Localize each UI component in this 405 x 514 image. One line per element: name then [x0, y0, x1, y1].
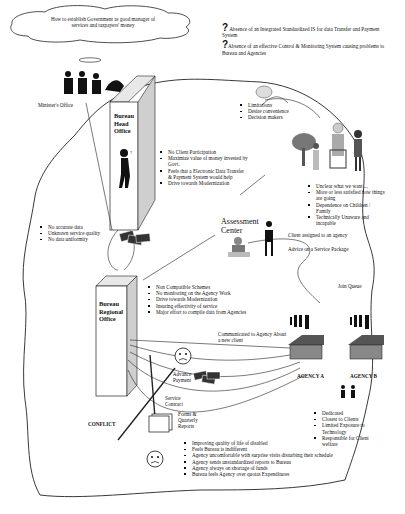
ministers-office-label: Minister's Office — [38, 102, 73, 108]
ministers-group-figure — [60, 70, 130, 102]
problem-item: ? Absence of an Integrated Standardized … — [222, 23, 392, 38]
flow-label-join-queue: Join Queue — [338, 283, 361, 289]
thinking-man-icon: ? — [116, 148, 136, 188]
title-cloud: How to establish Government as good mana… — [48, 16, 158, 28]
svg-text:?: ? — [130, 150, 133, 155]
client-stick-figure-icon — [260, 220, 278, 258]
money-icon — [192, 368, 222, 390]
agency-a-label: AGENCY A — [297, 373, 324, 379]
elderly-clients-illustration — [290, 120, 380, 180]
regional-office-bullets: Non Compatible Schemes No monitoring on … — [146, 284, 256, 315]
head-office-label: BureauHeadOffice — [114, 112, 134, 135]
agency-b-label: AGENCY B — [350, 373, 377, 379]
assessor-icon — [226, 236, 252, 258]
staff-figures-icon — [338, 384, 360, 406]
agency-b-building-icon — [346, 315, 386, 365]
agency-issues-bullets: Improving quality of life of disabled Fe… — [182, 440, 392, 477]
flow-label-advice: Advice on a Service Package — [288, 246, 349, 252]
flow-label-forms: Forms & Quarterly Reports — [178, 411, 208, 430]
money-icon — [118, 228, 152, 252]
client-traits-bullets: Unclear what we want ... More or less sa… — [306, 183, 386, 226]
flow-label-service-contract: Service Contract — [165, 395, 189, 407]
regional-office-label: BureauRegionalOffice — [99, 300, 123, 323]
flow-label-client-assigned: Client assigned to an agency — [288, 232, 347, 238]
worried-face-icon — [174, 346, 192, 366]
client-icon — [254, 82, 274, 100]
client-limitations-bullets: Limitations Desire convenience Decision … — [238, 102, 338, 121]
agency-a-building-icon — [286, 315, 326, 365]
flow-label-advance-payment: Advance Payment — [170, 371, 194, 383]
conflict-label: CONFLICT — [88, 421, 115, 427]
flow-label-communicated: Communicated to Agency About a new clien… — [218, 331, 288, 343]
people-icon — [60, 70, 130, 102]
forms-documents-icon — [146, 412, 174, 434]
head-office-bullets: No Client Participation Maximize value o… — [158, 149, 248, 186]
problem-item: ?Absence of an effective Control & Monit… — [222, 40, 392, 55]
worried-face-icon — [145, 448, 165, 470]
assessment-center-label: AssessmentCenter — [221, 217, 259, 235]
problem-list: ? Absence of an Integrated Standardized … — [222, 23, 392, 56]
data-issues-bullets: No accurate data Unknown service quality… — [38, 224, 108, 243]
